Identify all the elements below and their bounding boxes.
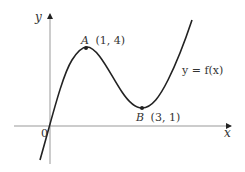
point-a-coords: (1, 4) <box>95 34 125 47</box>
point-b-label: B (3, 1) <box>135 111 180 124</box>
curve-label: y = f(x) <box>181 64 223 77</box>
function-graph: y x 0 A (1, 4) B (3, 1) y = f(x) <box>0 0 245 172</box>
x-axis-label: x <box>224 126 231 140</box>
origin-label: 0 <box>41 127 48 140</box>
point-b-name: B <box>135 111 144 124</box>
point-b-marker <box>140 106 144 110</box>
point-b-coords: (3, 1) <box>151 111 181 124</box>
point-a-name: A <box>80 34 89 47</box>
point-a-label: A (1, 4) <box>80 34 125 47</box>
y-axis-label: y <box>34 10 42 24</box>
